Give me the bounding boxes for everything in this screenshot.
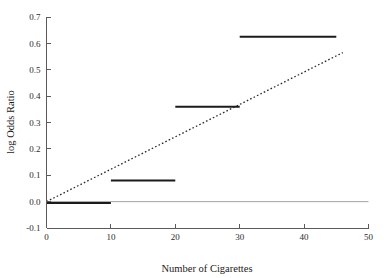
y-tick-label: 0.4: [29, 91, 41, 101]
y-tick-label: 0.0: [29, 197, 41, 207]
y-axis-title: log Odds Ratio: [5, 90, 16, 154]
y-tick-label: 0.6: [29, 39, 41, 49]
x-tick-label: 0: [44, 232, 49, 242]
y-tick-label: 0.2: [29, 144, 40, 154]
chart-figure: -0.10.00.10.20.30.40.50.60.7 01020304050…: [0, 0, 389, 278]
x-tick-label: 20: [171, 232, 181, 242]
y-tick-label: 0.1: [29, 170, 40, 180]
log-odds-ratio-chart: -0.10.00.10.20.30.40.50.60.7 01020304050…: [0, 0, 389, 278]
x-tick-label: 40: [300, 232, 310, 242]
x-tick-label: 10: [106, 232, 116, 242]
plot-background: [0, 0, 389, 278]
y-tick-label: 0.3: [29, 118, 41, 128]
x-tick-label: 50: [364, 232, 374, 242]
x-tick-label: 30: [235, 232, 245, 242]
y-tick-label: -0.1: [26, 223, 40, 233]
y-tick-label: 0.5: [29, 65, 41, 75]
y-tick-label: 0.7: [29, 12, 41, 22]
x-axis-title: Number of Cigarettes: [162, 263, 253, 274]
